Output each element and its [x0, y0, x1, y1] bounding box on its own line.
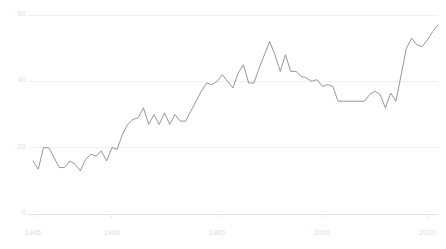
y-axis-tick-label: 0 — [4, 209, 26, 216]
series-line-group — [33, 25, 438, 171]
line-chart: 0204060 19451960198020002020 — [0, 0, 446, 249]
y-axis-tick-label: 40 — [4, 76, 26, 83]
y-axis-tick-label: 20 — [4, 143, 26, 150]
series-line — [33, 25, 438, 171]
x-axis-tick-label: 1960 — [92, 229, 132, 236]
chart-plot-area — [0, 0, 446, 249]
x-axis-tick-label: 2000 — [302, 229, 342, 236]
y-axis-tick-label: 60 — [4, 10, 26, 17]
x-axis-tick-label: 1945 — [13, 229, 53, 236]
x-axis-tick-label: 1980 — [197, 229, 237, 236]
x-axis-tick-label: 2020 — [407, 229, 446, 236]
gridline-group — [28, 15, 438, 218]
